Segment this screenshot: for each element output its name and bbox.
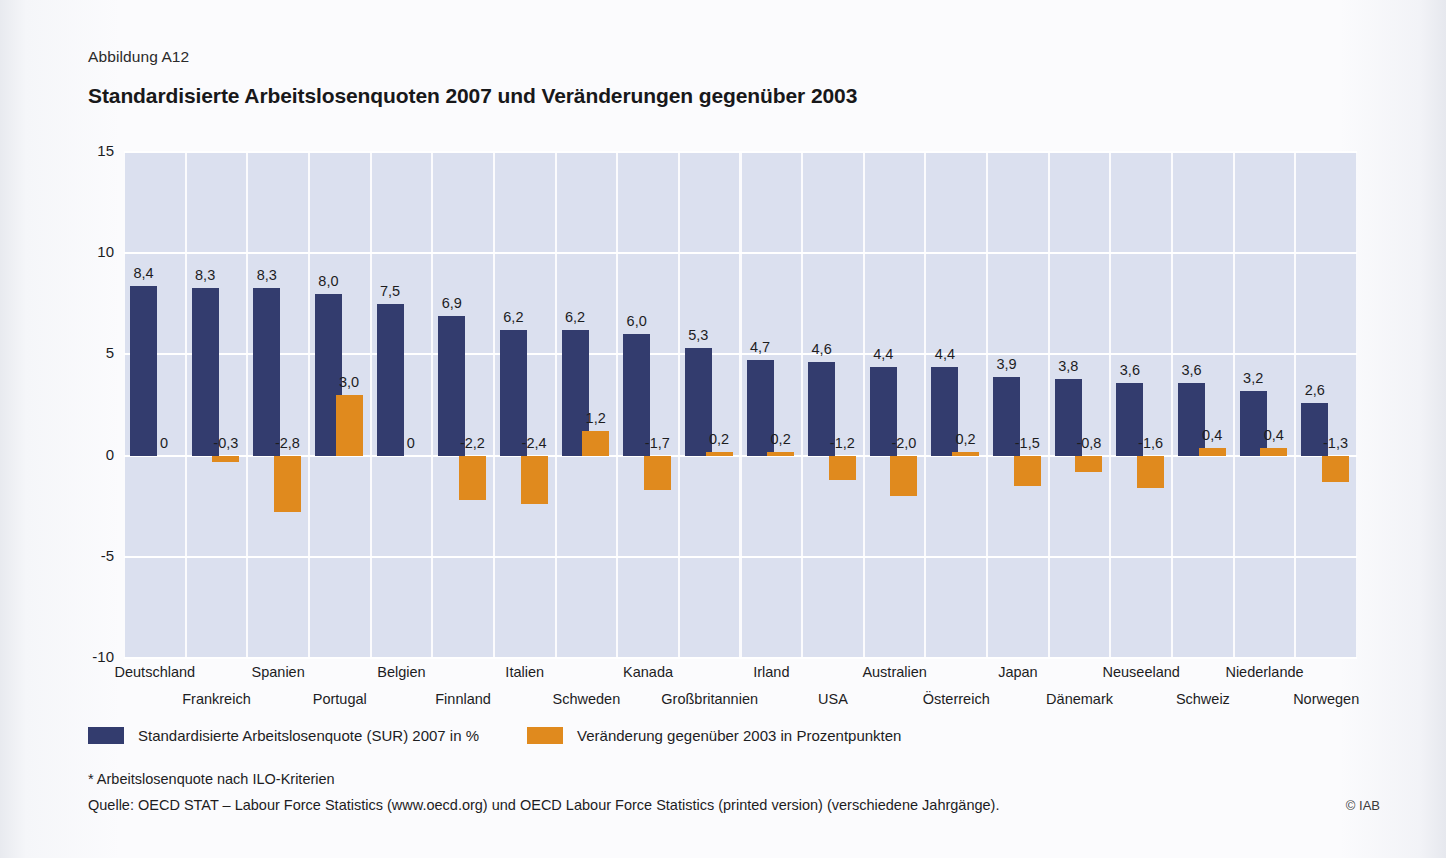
bar-change-vs-2003 bbox=[1075, 456, 1102, 472]
bar-value-label: -2,2 bbox=[449, 435, 495, 451]
bar-change-vs-2003 bbox=[582, 431, 609, 455]
bar-value-label: 6,2 bbox=[552, 309, 598, 325]
bar-change-vs-2003 bbox=[890, 456, 917, 496]
x-axis-category-label: Irland bbox=[701, 664, 841, 680]
bar-change-vs-2003 bbox=[706, 452, 733, 456]
y-axis-tick-label: 15 bbox=[76, 142, 114, 159]
bar-value-label: 0 bbox=[388, 435, 434, 451]
bar-value-label: 3,2 bbox=[1230, 370, 1276, 386]
x-axis-category-label: Norwegen bbox=[1256, 691, 1396, 707]
chart-gridline bbox=[124, 252, 1357, 254]
legend-item-sur: Standardisierte Arbeitslosenquote (SUR) … bbox=[88, 727, 479, 744]
bar-value-label: 0 bbox=[141, 435, 187, 451]
bar-change-vs-2003 bbox=[644, 456, 671, 490]
bar-value-label: 0,2 bbox=[696, 431, 742, 447]
bar-value-label: 8,4 bbox=[121, 265, 167, 281]
legend-item-change: Veränderung gegenüber 2003 in Prozentpun… bbox=[527, 727, 901, 744]
bar-unemployment-rate bbox=[192, 288, 219, 456]
bar-value-label: -1,5 bbox=[1004, 435, 1050, 451]
bar-value-label: 4,7 bbox=[737, 339, 783, 355]
legend-swatch-orange-icon bbox=[527, 727, 563, 744]
x-axis-category-label: Belgien bbox=[331, 664, 471, 680]
bar-value-label: 0,2 bbox=[943, 431, 989, 447]
bar-value-label: -1,6 bbox=[1128, 435, 1174, 451]
bar-unemployment-rate bbox=[377, 304, 404, 456]
bar-change-vs-2003 bbox=[336, 395, 363, 456]
bar-value-label: 0,4 bbox=[1251, 427, 1297, 443]
bar-change-vs-2003 bbox=[274, 456, 301, 513]
x-axis-category-label: Dänemark bbox=[1010, 691, 1150, 707]
chart-legend: Standardisierte Arbeitslosenquote (SUR) … bbox=[88, 727, 949, 744]
x-axis-category-label: Frankreich bbox=[146, 691, 286, 707]
bar-value-label: 4,4 bbox=[860, 346, 906, 362]
y-axis-tick-label: -10 bbox=[76, 648, 114, 665]
bar-value-label: 4,4 bbox=[922, 346, 968, 362]
bar-change-vs-2003 bbox=[1322, 456, 1349, 482]
bar-change-vs-2003 bbox=[952, 452, 979, 456]
x-axis-category-label: Österreich bbox=[886, 691, 1026, 707]
bar-value-label: -2,4 bbox=[511, 435, 557, 451]
bar-value-label: -1,3 bbox=[1313, 435, 1359, 451]
bar-value-label: 3,6 bbox=[1107, 362, 1153, 378]
footnote: * Arbeitslosenquote nach ILO-Kriterien bbox=[88, 771, 335, 787]
x-axis-category-label: Niederlande bbox=[1195, 664, 1335, 680]
legend-label-change: Veränderung gegenüber 2003 in Prozentpun… bbox=[577, 727, 901, 744]
x-axis-category-label: Spanien bbox=[208, 664, 348, 680]
x-axis-category-label: Finnland bbox=[393, 691, 533, 707]
bar-value-label: 7,5 bbox=[367, 283, 413, 299]
copyright-credit: © IAB bbox=[1346, 798, 1380, 813]
bar-unemployment-rate bbox=[1178, 383, 1205, 456]
bar-value-label: 1,2 bbox=[573, 410, 619, 426]
bar-value-label: 8,3 bbox=[182, 267, 228, 283]
x-axis-category-label: Portugal bbox=[270, 691, 410, 707]
y-axis-tick-label: 10 bbox=[76, 243, 114, 260]
source-note: Quelle: OECD STAT – Labour Force Statist… bbox=[88, 797, 999, 813]
x-axis-category-label: Italien bbox=[455, 664, 595, 680]
y-axis-tick-label: 0 bbox=[76, 446, 114, 463]
bar-change-vs-2003 bbox=[829, 456, 856, 480]
bar-change-vs-2003 bbox=[521, 456, 548, 505]
x-axis-category-label: Großbritannien bbox=[640, 691, 780, 707]
bar-change-vs-2003 bbox=[459, 456, 486, 501]
chart-gridline bbox=[124, 657, 1357, 659]
bar-change-vs-2003 bbox=[1260, 448, 1287, 456]
bar-value-label: 8,3 bbox=[244, 267, 290, 283]
bar-value-label: -2,8 bbox=[264, 435, 310, 451]
chart-plot-area bbox=[124, 152, 1357, 658]
x-axis-category-label: Schweiz bbox=[1133, 691, 1273, 707]
x-axis-category-label: Kanada bbox=[578, 664, 718, 680]
x-axis-category-label: Schweden bbox=[516, 691, 656, 707]
bar-value-label: 6,2 bbox=[490, 309, 536, 325]
bar-value-label: -1,2 bbox=[819, 435, 865, 451]
bar-value-label: -0,3 bbox=[203, 435, 249, 451]
chart-gridline bbox=[124, 556, 1357, 558]
bar-change-vs-2003 bbox=[767, 452, 794, 456]
bar-value-label: 5,3 bbox=[675, 327, 721, 343]
x-axis-category-label: Neuseeland bbox=[1071, 664, 1211, 680]
bar-change-vs-2003 bbox=[1014, 456, 1041, 486]
bar-value-label: 3,0 bbox=[326, 374, 372, 390]
figure-label: Abbildung A12 bbox=[88, 48, 189, 66]
page-title: Standardisierte Arbeitslosenquoten 2007 … bbox=[88, 84, 857, 108]
bar-value-label: 0,4 bbox=[1189, 427, 1235, 443]
bar-change-vs-2003 bbox=[1137, 456, 1164, 488]
figure-page: Abbildung A12 Standardisierte Arbeitslos… bbox=[0, 0, 1446, 858]
bar-value-label: -2,0 bbox=[881, 435, 927, 451]
bar-value-label: 3,6 bbox=[1169, 362, 1215, 378]
bar-value-label: 3,9 bbox=[984, 356, 1030, 372]
bar-unemployment-rate bbox=[253, 288, 280, 456]
bar-change-vs-2003 bbox=[1199, 448, 1226, 456]
y-axis-tick-label: -5 bbox=[76, 547, 114, 564]
y-axis-tick-label: 5 bbox=[76, 344, 114, 361]
chart-zero-line bbox=[124, 455, 1357, 457]
x-axis-category-label: USA bbox=[763, 691, 903, 707]
x-axis-category-label: Deutschland bbox=[85, 664, 225, 680]
bar-value-label: -1,7 bbox=[634, 435, 680, 451]
legend-label-sur: Standardisierte Arbeitslosenquote (SUR) … bbox=[138, 727, 479, 744]
chart-gridline bbox=[124, 151, 1357, 153]
bar-value-label: -0,8 bbox=[1066, 435, 1112, 451]
bar-unemployment-rate bbox=[1240, 391, 1267, 456]
x-axis-category-label: Japan bbox=[948, 664, 1088, 680]
bar-unemployment-rate bbox=[130, 286, 157, 456]
bar-value-label: 3,8 bbox=[1045, 358, 1091, 374]
